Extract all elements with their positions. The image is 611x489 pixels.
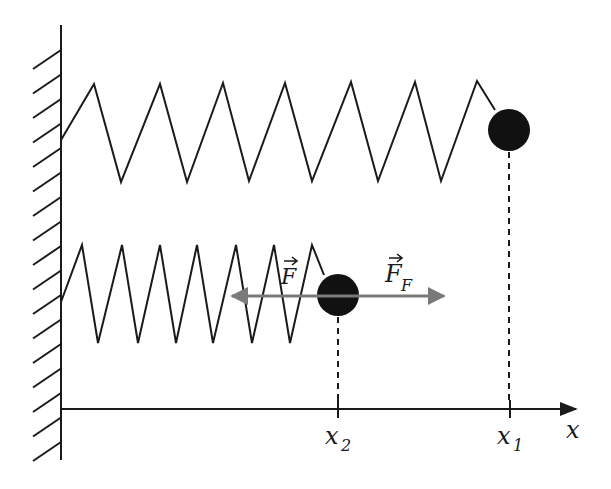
wall-hatch-line	[33, 222, 61, 241]
wall-hatch-line	[33, 99, 61, 118]
wall-hatch-line	[33, 418, 61, 437]
spring-diagram: x F F F x	[0, 0, 611, 489]
bottom-spring	[61, 245, 359, 400]
external-force-label: F F	[384, 254, 413, 295]
wall-hatch-line	[33, 173, 61, 192]
wall-hatching	[33, 50, 61, 461]
wall-hatch-line	[33, 344, 61, 363]
external-force-subscript: F	[400, 276, 413, 295]
wall	[33, 25, 61, 461]
tick-label-x1-base: x	[497, 422, 511, 450]
wall-hatch-line	[33, 124, 61, 143]
wall-hatch-line	[33, 197, 61, 216]
spring-force-symbol: F	[280, 264, 297, 289]
tick-label-x2-base: x	[325, 422, 339, 450]
top-mass-ball	[488, 109, 530, 151]
tick-label-x2-subscript: 2	[340, 436, 351, 455]
tick-label-x1-subscript: 1	[513, 436, 523, 455]
top-spring-coil	[61, 81, 495, 182]
spring-force-label: F	[280, 257, 297, 289]
top-spring	[61, 81, 530, 400]
wall-hatch-line	[33, 148, 61, 167]
wall-hatch-line	[33, 246, 61, 265]
wall-hatch-line	[33, 50, 61, 69]
axis-label-x: x	[566, 416, 580, 444]
wall-hatch-line	[33, 369, 61, 388]
wall-hatch-line	[33, 393, 61, 412]
wall-hatch-line	[33, 295, 61, 314]
wall-hatch-line	[33, 320, 61, 339]
bottom-spring-coil	[61, 245, 324, 343]
wall-hatch-line	[33, 75, 61, 94]
diagram-canvas: x F F F x	[0, 0, 611, 489]
tick-label-x2: x 2	[325, 422, 351, 455]
wall-hatch-line	[33, 271, 61, 290]
tick-label-x1: x 1	[497, 422, 523, 455]
wall-hatch-line	[33, 442, 61, 461]
